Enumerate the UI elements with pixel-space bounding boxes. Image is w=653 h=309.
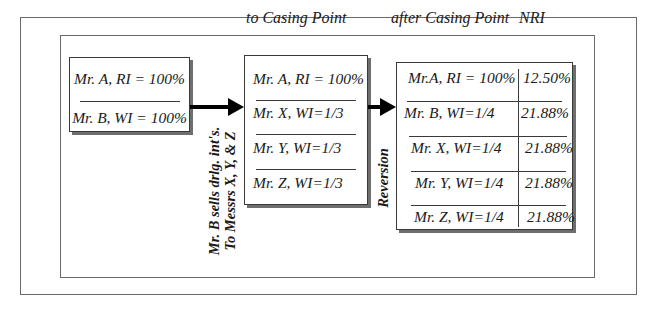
acp-nri-a: 12.50% — [523, 69, 571, 87]
column-divider — [518, 69, 519, 227]
header-to-casing-point: to Casing Point — [246, 9, 346, 27]
acp-nri-b: 21.88% — [521, 104, 569, 122]
after-casing-point-box: Mr.A, RI = 100% 12.50% Mr. B, WI=1/4 21.… — [396, 62, 573, 230]
reversion-label: Reversion — [375, 138, 391, 218]
row-divider — [256, 134, 356, 135]
row-divider — [411, 171, 566, 172]
row-divider — [256, 100, 356, 101]
before-row-a: Mr. A, RI = 100% — [70, 70, 189, 88]
header-after-casing-point: after Casing Point — [391, 9, 509, 27]
transfer-note-line1: Mr. B sells drlg. int's. — [206, 124, 222, 259]
row-divider — [80, 101, 180, 102]
tcp-row-z: Mr. Z, WI=1/3 — [253, 174, 343, 192]
acp-owner-z: Mr. Z, WI=1/4 — [414, 208, 504, 226]
arrow-1-shaft — [190, 105, 230, 109]
before-ownership-box: Mr. A, RI = 100% Mr. B, WI = 100% — [69, 57, 190, 132]
acp-owner-b: Mr. B, WI=1/4 — [404, 104, 495, 122]
header-nri: NRI — [519, 9, 545, 27]
transfer-note: Mr. B sells drlg. int's. To Messrs X, Y,… — [206, 124, 240, 259]
acp-nri-y: 21.88% — [525, 174, 573, 192]
tcp-row-a: Mr. A, RI = 100% — [253, 70, 364, 88]
row-divider — [407, 101, 562, 102]
acp-nri-x: 21.88% — [525, 139, 573, 157]
transfer-note-line2: To Messrs X, Y, & Z — [222, 124, 238, 259]
row-divider — [411, 205, 566, 206]
row-divider — [256, 169, 356, 170]
arrow-right-icon — [380, 98, 396, 116]
acp-owner-a: Mr.A, RI = 100% — [408, 69, 515, 87]
to-casing-point-box: Mr. A, RI = 100% Mr. X, WI=1/3 Mr. Y, WI… — [244, 55, 368, 205]
acp-nri-z: 21.88% — [527, 208, 575, 226]
before-row-b: Mr. B, WI = 100% — [70, 109, 189, 127]
acp-owner-x: Mr. X, WI=1/4 — [411, 139, 502, 157]
arrow-right-icon — [228, 98, 244, 116]
tcp-row-x: Mr. X, WI=1/3 — [253, 104, 344, 122]
acp-owner-y: Mr. Y, WI=1/4 — [415, 174, 503, 192]
row-divider — [409, 136, 567, 137]
tcp-row-y: Mr. Y, WI=1/3 — [253, 139, 341, 157]
